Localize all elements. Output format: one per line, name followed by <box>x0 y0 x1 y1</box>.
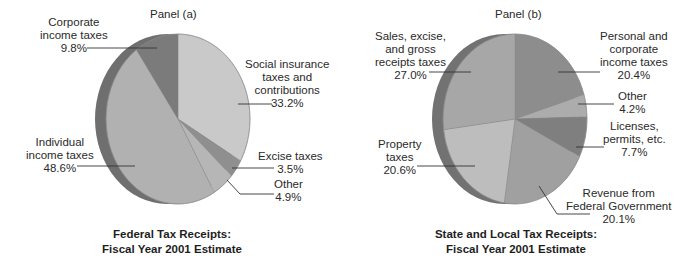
federal-chart-caption: Federal Tax Receipts: Fiscal Year 2001 E… <box>0 227 344 257</box>
pie-slice <box>444 119 515 203</box>
label-other-state-local: Other 4.2% <box>618 90 647 116</box>
leader-line <box>227 180 274 194</box>
label-corporate-income-taxes: Corporate income taxes 9.8% <box>40 16 108 55</box>
label-other-federal: Other 4.9% <box>274 178 303 204</box>
state-local-chart-caption: State and Local Tax Receipts: Fiscal Yea… <box>344 227 688 257</box>
label-sales-excise-gross-receipts: Sales, excise, and gross receipts taxes … <box>375 30 446 82</box>
panel-a-federal: Panel (a) Corporate income taxes 9.8% So… <box>0 0 344 265</box>
label-social-insurance: Social insurance taxes and contributions… <box>245 58 329 110</box>
label-property-taxes: Property taxes 20.6% <box>378 138 421 177</box>
panel-b-state-local: Panel (b) Sales, excise, and gross recei… <box>344 0 688 265</box>
label-revenue-federal-government: Revenue from Federal Government 20.1% <box>566 187 671 226</box>
pie-slice <box>443 34 515 130</box>
label-personal-corporate-income: Personal and corporate income taxes 20.4… <box>600 30 668 82</box>
label-excise-taxes: Excise taxes 3.5% <box>258 150 323 176</box>
label-licenses-permits: Licenses, permits, etc. 7.7% <box>603 120 666 159</box>
label-individual-income-taxes: Individual income taxes 48.6% <box>26 136 94 175</box>
